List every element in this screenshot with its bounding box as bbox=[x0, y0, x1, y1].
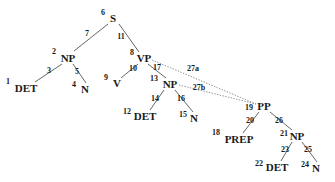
node-index-n8: 8 bbox=[130, 48, 134, 57]
node-index-n4: 4 bbox=[72, 80, 76, 89]
edge-index-e10: 10 bbox=[129, 64, 137, 73]
node-index-n19: 19 bbox=[245, 103, 253, 112]
tree-node-det-n12: DET bbox=[134, 110, 157, 122]
edge-index-e14: 14 bbox=[151, 94, 159, 103]
edge-index-e27a: 27a bbox=[187, 64, 199, 73]
tree-node-np-n21: NP bbox=[290, 130, 305, 142]
node-index-n15: 15 bbox=[179, 110, 187, 119]
tree-node-prep-n18: PREP bbox=[225, 133, 254, 145]
tree-node-np-n13: NP bbox=[163, 78, 178, 90]
tree-node-det-n1: DET bbox=[15, 82, 38, 94]
tree-node-v-n9: V bbox=[113, 77, 121, 89]
tree-node-vp-n8: VP bbox=[137, 52, 152, 64]
edge-index-e7: 7 bbox=[85, 29, 89, 38]
node-index-n18: 18 bbox=[212, 128, 220, 137]
tree-node-det-n22: DET bbox=[266, 161, 289, 173]
node-index-n24: 24 bbox=[301, 160, 309, 169]
edge-index-e25: 25 bbox=[304, 145, 312, 154]
edge-index-e27b: 27b bbox=[193, 83, 205, 92]
node-index-n12: 12 bbox=[123, 107, 131, 116]
tree-edge-layer bbox=[0, 0, 335, 182]
edge-index-e5: 5 bbox=[75, 67, 79, 76]
tree-node-n-n24: N bbox=[312, 162, 320, 174]
edge-index-e23: 23 bbox=[281, 145, 289, 154]
edge-index-e17: 17 bbox=[153, 63, 161, 72]
edge-index-e3: 3 bbox=[47, 66, 51, 75]
node-index-n9: 9 bbox=[104, 73, 108, 82]
tree-node-pp-n19: PP bbox=[257, 100, 270, 112]
tree-node-s-n6: S bbox=[110, 12, 116, 24]
tree-node-n-n4: N bbox=[81, 83, 89, 95]
node-index-n1: 1 bbox=[6, 77, 10, 86]
node-index-n13: 13 bbox=[150, 74, 158, 83]
edge-index-e26: 26 bbox=[275, 116, 283, 125]
node-index-n6: 6 bbox=[101, 8, 105, 17]
edge-index-e16: 16 bbox=[177, 94, 185, 103]
node-index-n21: 21 bbox=[280, 129, 288, 138]
parse-tree-diagram: 6S2NP8VP1DET4N9V13NP12DET15N19PP18PREP21… bbox=[0, 0, 335, 182]
tree-node-np-n2: NP bbox=[61, 52, 76, 64]
node-index-n22: 22 bbox=[255, 159, 263, 168]
node-index-n2: 2 bbox=[52, 47, 56, 56]
edge-index-e20: 20 bbox=[246, 116, 254, 125]
edge-index-e11: 11 bbox=[117, 32, 125, 41]
tree-edge bbox=[74, 24, 108, 51]
tree-node-n-n15: N bbox=[190, 112, 198, 124]
